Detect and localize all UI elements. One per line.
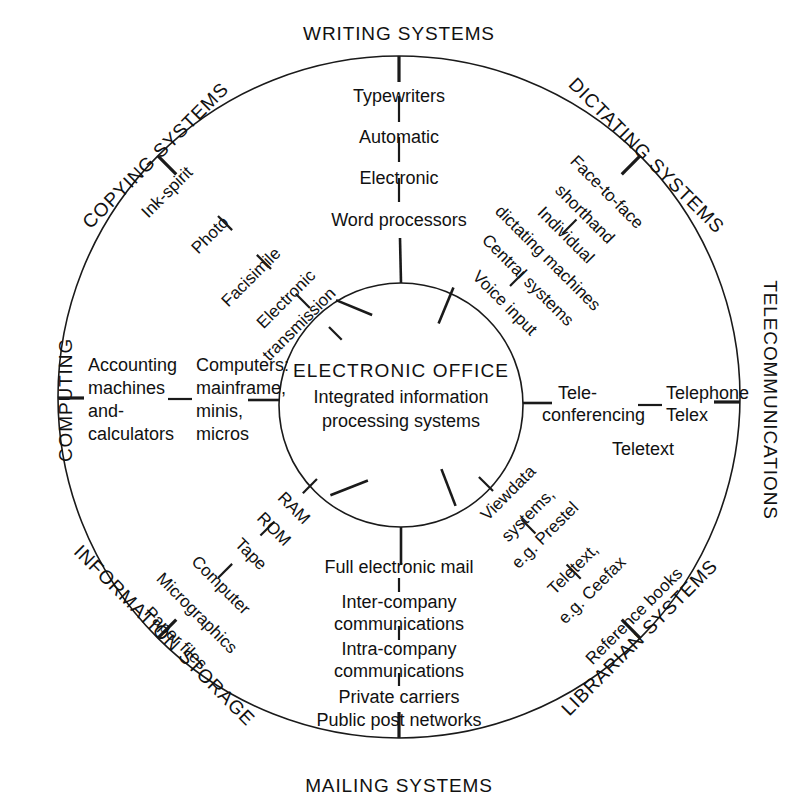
node-tape: Tape xyxy=(231,534,271,574)
connector-dictating-3 xyxy=(479,477,493,491)
spoke-infostore-hub xyxy=(336,290,372,326)
node-accounting: Accounting xyxy=(88,355,177,375)
ring-tick-librarian xyxy=(622,156,640,174)
node-inter-company: Inter-company xyxy=(341,592,456,612)
ring-tick-information-storage xyxy=(158,156,176,174)
sector-label-telecommunications: TELECOMMUNICATIONS xyxy=(760,280,781,520)
node-photo: Photo xyxy=(188,213,233,258)
node-conferencing: conferencing xyxy=(542,405,645,425)
spoke-librarian-hub xyxy=(428,287,464,323)
spoke-dictating-hub xyxy=(430,469,467,506)
node-public-post-networks: Public post networks xyxy=(316,710,481,730)
node-teletext: Teletext xyxy=(612,439,674,459)
spoke-copying-hub xyxy=(330,469,367,506)
sector-label-writing: WRITING SYSTEMS xyxy=(303,23,495,44)
node-automatic: Automatic xyxy=(359,127,439,147)
node-telephone: Telephone xyxy=(666,383,749,403)
hub-title: ELECTRONIC OFFICE xyxy=(293,360,509,381)
node-word-processors: Word processors xyxy=(331,210,467,230)
node-telex: Telex xyxy=(666,405,708,425)
sector-label-computing: COMPUTING xyxy=(55,338,76,462)
hub-subtitle-line-1: Integrated information xyxy=(313,387,488,407)
node-calculators: calculators xyxy=(88,424,174,444)
node-intra-company-communications: communications xyxy=(334,661,464,681)
node-intra-company: Intra-company xyxy=(341,639,456,659)
node-full-electronic-mail: Full electronic mail xyxy=(324,557,473,577)
node-mainframe: mainframe, xyxy=(196,378,286,398)
node-micros: micros xyxy=(196,424,249,444)
node-inter-company-communications: communications xyxy=(334,614,464,634)
spoke-writing-hub xyxy=(400,238,401,283)
connector-infostore-4 xyxy=(329,327,342,340)
node-minis: minis, xyxy=(196,401,243,421)
node-typewriters: Typewriters xyxy=(353,86,445,106)
node-private-carriers: Private carriers xyxy=(338,687,459,707)
hub-subtitle-line-2: processing systems xyxy=(322,411,480,431)
node-tele: Tele- xyxy=(558,383,597,403)
node-electronic: Electronic xyxy=(359,168,438,188)
node-machines: machines xyxy=(88,378,165,398)
node-and: and- xyxy=(88,401,124,421)
electronic-office-wheel-diagram: WRITING SYSTEMS MAILING SYSTEMS COMPUTIN… xyxy=(0,0,798,807)
sector-label-mailing: MAILING SYSTEMS xyxy=(305,775,493,796)
